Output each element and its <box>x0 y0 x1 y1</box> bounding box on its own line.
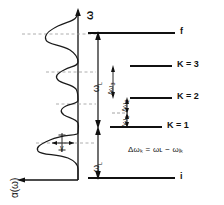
detuning-subscript-1: 1 <box>124 116 130 119</box>
energy-level-absorption-figure: ω α(ω) γ f K = 3 K = 2 K = 1 i ωL ωL Δω3… <box>0 0 224 205</box>
detuning-label-2: Δω2 <box>122 100 131 112</box>
level-label-K1: K = 1 <box>167 121 189 130</box>
level-label-i: i <box>180 172 183 181</box>
omega-subscript-lower: L <box>97 162 103 165</box>
detuning-label-3: Δω3 <box>108 83 117 95</box>
omega-symbol-upper: ω <box>91 85 101 92</box>
absorption-spectrum-curve <box>37 10 78 180</box>
linewidth-gamma-label: γ <box>60 144 64 151</box>
figure-canvas <box>0 0 224 205</box>
omega-subscript-upper: L <box>97 82 103 85</box>
detuning-subscript-2: 2 <box>124 100 130 103</box>
level-label-f: f <box>180 27 183 36</box>
delta-omega-3: Δω <box>107 86 114 95</box>
delta-omega-2: Δω <box>121 103 128 112</box>
alpha-axis-label: α(ω) <box>10 178 20 198</box>
energy-levels <box>88 33 175 178</box>
laser-arrow-upper <box>95 31 101 129</box>
alpha-axis <box>17 177 78 182</box>
laser-frequency-label-upper: ωL <box>92 82 103 92</box>
delta-omega-1: Δω <box>121 119 128 128</box>
detuning-subscript-3: 3 <box>110 83 116 86</box>
detuning-equation: Δωₖ = ωʟ − ωᵢₖ <box>128 146 184 154</box>
alignment-guides <box>22 34 96 143</box>
omega-axis-label: ω <box>84 11 95 20</box>
level-label-K2: K = 2 <box>177 92 199 101</box>
level-label-K3: K = 3 <box>177 60 199 69</box>
detuning-label-1: Δω1 <box>122 116 131 128</box>
omega-symbol-lower: ω <box>91 165 101 172</box>
laser-frequency-label-lower: ωL <box>92 162 103 172</box>
